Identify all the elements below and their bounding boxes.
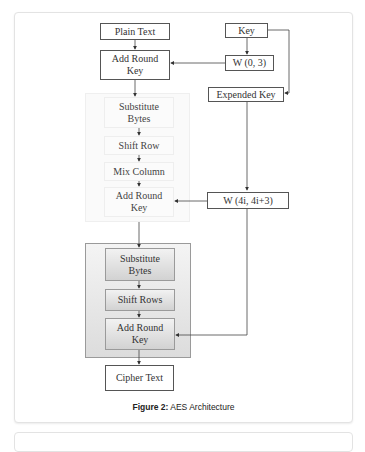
key-node: Key bbox=[225, 23, 268, 38]
mix-column-node: Mix Column bbox=[104, 162, 174, 181]
shift-rows-final-node: Shift Rows bbox=[105, 289, 175, 311]
w-0-3-node: W (0, 3) bbox=[225, 55, 274, 71]
w-4i-node: W (4i, 4i+3) bbox=[207, 192, 289, 209]
add-round-key-final-node: Add Round Key bbox=[105, 318, 175, 350]
shift-row-node: Shift Row bbox=[104, 136, 174, 155]
figure-caption: Figure 2: AES Architecture bbox=[14, 402, 353, 412]
add-round-key-initial-node: Add Round Key bbox=[100, 50, 170, 80]
substitute-bytes-round-node: Substitute Bytes bbox=[104, 97, 174, 128]
add-round-key-round-node: Add Round Key bbox=[104, 187, 174, 217]
substitute-bytes-final-node: Substitute Bytes bbox=[105, 248, 175, 281]
plain-text-node: Plain Text bbox=[100, 23, 170, 40]
caption-label: Figure 2: bbox=[132, 402, 168, 412]
cipher-text-node: Cipher Text bbox=[105, 365, 174, 391]
expanded-key-node: Expended Key bbox=[208, 87, 284, 102]
caption-text: AES Architecture bbox=[168, 402, 234, 412]
